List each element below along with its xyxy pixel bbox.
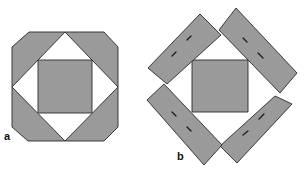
- panel-a-label: a: [4, 131, 10, 142]
- center-square-a: [38, 60, 92, 113]
- quilt-diagram: [0, 0, 304, 169]
- center-square-b: [192, 60, 248, 112]
- panel-b-label: b: [177, 151, 184, 162]
- panel-b: [147, 8, 297, 165]
- panel-a: [12, 32, 118, 141]
